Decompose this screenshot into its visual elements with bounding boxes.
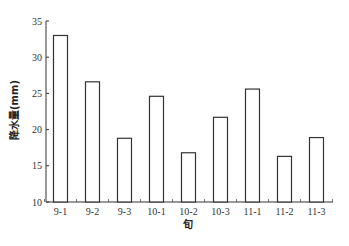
- y-tick-label: 35: [32, 16, 42, 27]
- precipitation-bar-chart: 101520253035 9-19-29-310-110-210-311-111…: [0, 0, 349, 246]
- bar-10-2: [182, 153, 196, 202]
- y-tick-label: 25: [32, 88, 42, 99]
- y-tick-label: 20: [32, 124, 42, 135]
- x-tick-label: 11-3: [308, 206, 326, 217]
- bar-11-1: [246, 89, 260, 202]
- y-tick-label: 10: [32, 197, 42, 208]
- x-tick-label: 10-3: [211, 206, 229, 217]
- x-tick-label: 10-1: [147, 206, 165, 217]
- bars: [54, 35, 324, 202]
- bar-9-1: [54, 35, 68, 202]
- y-tick-label: 30: [32, 52, 42, 63]
- bar-10-1: [150, 96, 164, 202]
- y-axis: 101520253035: [32, 16, 49, 208]
- bar-10-3: [214, 117, 228, 202]
- y-axis-title: 降水量(mm): [8, 80, 20, 140]
- x-tick-label: 11-1: [244, 206, 262, 217]
- x-tick-label: 9-2: [86, 206, 99, 217]
- x-tick-label: 9-3: [118, 206, 131, 217]
- bar-11-3: [310, 138, 324, 202]
- x-axis-title: 旬: [182, 218, 193, 230]
- x-tick-label: 10-2: [179, 206, 197, 217]
- x-tick-label: 9-1: [54, 206, 67, 217]
- bar-9-3: [118, 138, 132, 202]
- bar-9-2: [86, 82, 100, 202]
- y-tick-label: 15: [32, 160, 42, 171]
- bar-11-2: [278, 156, 292, 202]
- x-tick-label: 11-2: [276, 206, 294, 217]
